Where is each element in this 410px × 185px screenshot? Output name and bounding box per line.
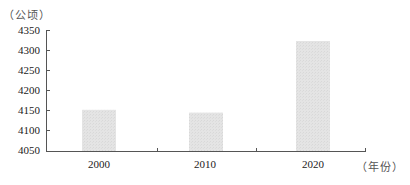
bar-2010: [189, 113, 223, 151]
bar-2020: [296, 41, 330, 151]
x-tick-label: 2020: [293, 158, 333, 170]
x-tick-label: 2000: [79, 158, 119, 170]
x-axis-unit-label: （年份）: [356, 158, 404, 174]
x-tick-label: 2010: [185, 158, 225, 170]
bar-series: [82, 41, 330, 151]
bar-2000: [82, 110, 116, 151]
x-axis-ticks: [158, 148, 366, 151]
